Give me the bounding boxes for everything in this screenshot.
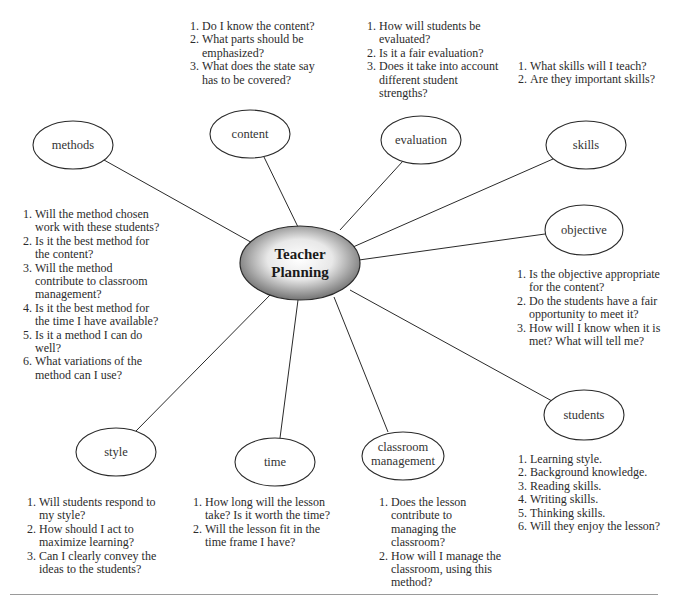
connector-content bbox=[264, 157, 298, 227]
list-item: 5.Is it a method I can do well? bbox=[23, 329, 163, 356]
list-item: 1.How will students be evaluated? bbox=[367, 20, 499, 47]
questions-time: 1.How long will the lesson take? Is it w… bbox=[193, 496, 343, 550]
list-item: 3.Can I clearly convey the ideas to the … bbox=[27, 550, 159, 577]
questions-content: 1.Do I know the content? 2.What parts sh… bbox=[190, 20, 325, 87]
questions-students: 1.Learning style. 2.Background knowledge… bbox=[518, 453, 668, 533]
list-item: 1.Does the lesson contribute to managing… bbox=[379, 496, 501, 550]
node-center-teacher-planning: Teacher Planning bbox=[240, 226, 360, 300]
node-skills: skills bbox=[546, 121, 626, 169]
node-time: time bbox=[235, 438, 315, 486]
svg-text:style: style bbox=[104, 445, 128, 459]
questions-skills: 1.What skills will I teach? 2.Are they i… bbox=[518, 60, 658, 87]
list-item: 1.Will the method chosen work with these… bbox=[23, 208, 163, 235]
list-item: 2.Are they important skills? bbox=[518, 73, 658, 86]
list-item: 1.Is the objective appropriate for the c… bbox=[517, 268, 667, 295]
node-methods: methods bbox=[33, 121, 113, 169]
svg-text:classroom: classroom bbox=[378, 440, 429, 454]
list-item: 2.Will the lesson fit in the time frame … bbox=[193, 523, 343, 550]
node-classroom-management: classroom management bbox=[362, 432, 444, 480]
svg-text:evaluation: evaluation bbox=[395, 133, 448, 147]
questions-objective: 1.Is the objective appropriate for the c… bbox=[517, 268, 667, 348]
connector-objective bbox=[359, 234, 545, 260]
list-item: 1.How long will the lesson take? Is it w… bbox=[193, 496, 343, 523]
list-item: 2.How will I manage the classroom, using… bbox=[379, 550, 501, 590]
node-students: students bbox=[544, 390, 624, 440]
svg-text:skills: skills bbox=[573, 138, 600, 152]
svg-text:students: students bbox=[564, 408, 605, 422]
connector-evaluation bbox=[340, 161, 403, 230]
svg-text:time: time bbox=[264, 455, 287, 469]
list-item: 6.Will they enjoy the lesson? bbox=[518, 520, 668, 533]
list-item: 6.What variations of the method can I us… bbox=[23, 355, 163, 382]
list-item: 3.What does the state say has to be cove… bbox=[190, 60, 325, 87]
svg-text:Teacher: Teacher bbox=[274, 246, 325, 262]
svg-text:methods: methods bbox=[52, 138, 94, 152]
list-item: 2.How should I act to maximize learning? bbox=[27, 523, 159, 550]
list-item: 3.Reading skills. bbox=[518, 480, 668, 493]
list-item: 3.How will I know when it is met? What w… bbox=[517, 322, 667, 349]
list-item: 3.Will the method contribute to classroo… bbox=[23, 262, 163, 302]
connector-classroom-management bbox=[334, 297, 388, 432]
node-content: content bbox=[210, 110, 290, 158]
questions-methods: 1.Will the method chosen work with these… bbox=[23, 208, 163, 382]
svg-text:objective: objective bbox=[561, 223, 607, 237]
questions-classroom-management: 1.Does the lesson contribute to managing… bbox=[379, 496, 501, 590]
bottom-divider bbox=[10, 594, 658, 595]
list-item: 1.Will students respond to my style? bbox=[27, 496, 159, 523]
list-item: 4.Is it the best method for the time I h… bbox=[23, 302, 163, 329]
svg-text:content: content bbox=[232, 127, 269, 141]
connector-time bbox=[280, 300, 298, 438]
list-item: 2.Do the students have a fair opportunit… bbox=[517, 295, 667, 322]
list-item: 5.Thinking skills. bbox=[518, 507, 668, 520]
node-evaluation: evaluation bbox=[381, 116, 461, 164]
list-item: 1.What skills will I teach? bbox=[518, 60, 658, 73]
svg-text:management: management bbox=[371, 454, 435, 468]
list-item: 1.Learning style. bbox=[518, 453, 668, 466]
list-item: 2.Background knowledge. bbox=[518, 466, 668, 479]
questions-style: 1.Will students respond to my style? 2.H… bbox=[27, 496, 159, 576]
connectors bbox=[104, 157, 553, 438]
node-style: style bbox=[76, 428, 156, 476]
list-item: 1.Do I know the content? bbox=[190, 20, 325, 33]
list-item: 2.What parts should be emphasized? bbox=[190, 33, 325, 60]
questions-evaluation: 1.How will students be evaluated? 2.Is i… bbox=[367, 20, 499, 100]
list-item: 3.Does it take into account different st… bbox=[367, 60, 499, 100]
list-item: 2.Is it the best method for the content? bbox=[23, 235, 163, 262]
connector-skills bbox=[353, 159, 553, 247]
node-objective: objective bbox=[545, 205, 623, 255]
list-item: 2.Is it a fair evaluation? bbox=[367, 47, 499, 60]
list-item: 4.Writing skills. bbox=[518, 493, 668, 506]
svg-text:Planning: Planning bbox=[271, 264, 329, 280]
